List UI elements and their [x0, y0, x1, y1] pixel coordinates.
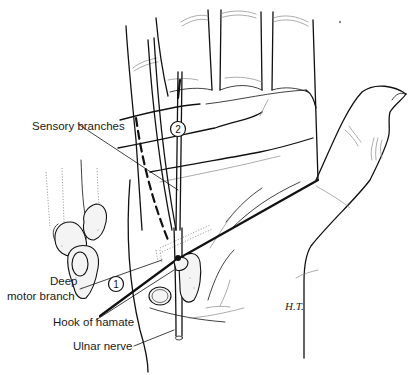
marker-1: 1 [109, 277, 124, 292]
label-hook-of-hamate: Hook of hamate [53, 316, 134, 328]
label-ulnar-nerve: Ulnar nerve [73, 340, 132, 352]
label-deep-motor-branch: motor branch [7, 290, 75, 302]
ulnar-nerve-illustration: 2 1 Sensory branches Deep motor branch H… [0, 0, 413, 375]
label-deep-line1: Deep [50, 275, 78, 287]
palm [118, 90, 316, 372]
thumb [296, 86, 406, 358]
fingers [126, 10, 341, 230]
marker-2-label: 2 [175, 124, 181, 135]
marker-2: 2 [171, 122, 186, 137]
marker-1-label: 1 [113, 279, 119, 290]
artist-signature: H.T. [284, 300, 304, 312]
label-sensory-branches: Sensory branches [32, 120, 125, 132]
